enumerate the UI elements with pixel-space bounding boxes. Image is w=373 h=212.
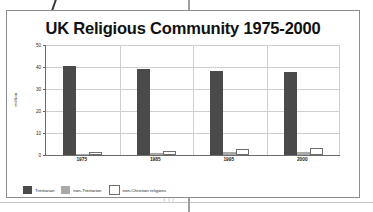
bar — [310, 148, 323, 155]
y-axis-tick-labels: 01020304050 — [23, 45, 43, 155]
legend-label: non-Christian religions — [123, 188, 167, 193]
x-axis-tick-label: 1975 — [76, 157, 87, 162]
bar — [223, 152, 236, 155]
x-axis-tick-label: 1995 — [223, 157, 234, 162]
x-axis-tick-label: 2000 — [297, 157, 308, 162]
page-edge-line-bottom — [0, 202, 373, 203]
y-axis-tickmark — [43, 155, 46, 156]
y-axis-tick-label: 30 — [36, 87, 41, 92]
legend-item: non-Christian religions — [109, 185, 167, 195]
chart-legend: Trinitariannon-Trinitariannon-Christian … — [23, 185, 166, 195]
legend-label: non-Trinitarian — [73, 188, 101, 193]
y-axis-title: million — [13, 80, 18, 120]
chart-figure: UK Religious Community 1975-2000 million… — [6, 10, 360, 198]
x-axis-tick-label: 1985 — [150, 157, 161, 162]
legend-label: Trinitarian — [35, 188, 54, 193]
bar — [137, 69, 150, 155]
legend-swatch-icon — [23, 186, 32, 194]
y-axis-tick-label: 20 — [36, 109, 41, 114]
bar — [89, 152, 102, 155]
bar — [236, 149, 249, 155]
x-axis-tick-labels: 1975198519952000 — [45, 157, 339, 167]
legend-swatch-icon — [109, 185, 120, 195]
bar — [76, 154, 89, 156]
bar-group — [267, 45, 341, 155]
bar — [150, 153, 163, 155]
bar-group — [120, 45, 194, 155]
bar — [284, 72, 297, 155]
legend-item: non-Trinitarian — [61, 186, 101, 194]
plot-area — [45, 45, 340, 156]
chart-title: UK Religious Community 1975-2000 — [7, 19, 359, 38]
bar — [210, 71, 223, 155]
legend-item: Trinitarian — [23, 186, 54, 194]
y-axis-tick-label: 0 — [38, 153, 41, 158]
bar — [297, 152, 310, 155]
y-axis-tick-label: 50 — [36, 43, 41, 48]
y-axis-tick-label: 10 — [36, 131, 41, 136]
plot-wrapper: million 01020304050 1975198519952000 — [7, 45, 361, 177]
y-axis-tick-label: 40 — [36, 65, 41, 70]
bar — [63, 66, 76, 155]
bar-group — [193, 45, 267, 155]
bar-group — [46, 45, 120, 155]
bar — [163, 151, 176, 155]
legend-swatch-icon — [61, 186, 70, 194]
